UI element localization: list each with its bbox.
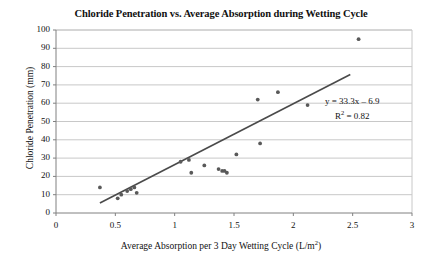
x-tick-label: 1 — [155, 220, 195, 230]
data-point — [129, 187, 133, 191]
data-point — [258, 142, 262, 146]
data-point — [225, 171, 229, 175]
data-point — [125, 189, 129, 193]
x-tick-label: 3 — [392, 220, 432, 230]
data-point — [119, 193, 123, 197]
trendline-path — [100, 74, 350, 203]
data-point — [187, 158, 191, 162]
x-axis-title: Average Absorption per 3 Day Wetting Cyc… — [0, 239, 442, 251]
data-point — [179, 160, 183, 164]
trendline-equation: y = 33.3x – 6.9 — [325, 95, 380, 107]
x-tick-label: 0.5 — [95, 220, 135, 230]
trend-line — [100, 74, 350, 203]
x-axis-title-text: Average Absorption per 3 Day Wetting Cyc… — [121, 241, 315, 251]
y-axis-title: Chloride Penetration (mm) — [25, 18, 35, 218]
chart-figure: Chloride Penetration vs. Average Absorpt… — [0, 0, 442, 266]
data-point — [202, 164, 206, 168]
trendline-r-squared: R2 = 0.82 — [325, 107, 380, 122]
data-point — [217, 167, 221, 171]
x-tick-label: 2 — [273, 220, 313, 230]
data-point — [116, 196, 120, 200]
tick-marks — [53, 30, 412, 216]
x-tick-label: 1.5 — [214, 220, 254, 230]
data-point — [256, 98, 260, 102]
data-point — [189, 171, 193, 175]
data-point — [98, 185, 102, 189]
data-point — [234, 153, 238, 157]
data-point — [357, 37, 361, 41]
x-tick-label: 0 — [36, 220, 76, 230]
data-point — [135, 191, 139, 195]
data-point — [132, 185, 136, 189]
x-axis-title-suffix: ) — [318, 241, 321, 251]
data-point — [306, 103, 310, 107]
data-point-series — [98, 37, 360, 200]
x-tick-label: 2.5 — [333, 220, 373, 230]
data-point — [276, 90, 280, 94]
trendline-annotation: y = 33.3x – 6.9 R2 = 0.82 — [325, 95, 380, 122]
r-squared-value: = 0.82 — [344, 111, 369, 121]
